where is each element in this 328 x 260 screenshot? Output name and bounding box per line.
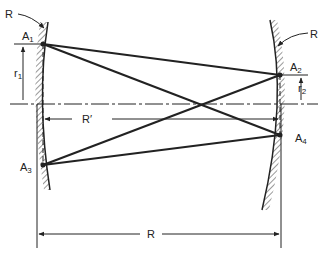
label-r-right: R: [310, 28, 318, 40]
cavity-diagram: R R A1 A2 A3 A4 r1 r2 R′ R: [0, 0, 328, 260]
label-a1: A1: [22, 30, 34, 44]
label-r-prime: R′: [82, 113, 92, 125]
point-a3: [41, 163, 46, 168]
r-right-leader: [278, 33, 308, 46]
label-a4: A4: [295, 132, 307, 146]
label-r-bottom: R: [147, 228, 155, 240]
point-a4: [278, 133, 283, 138]
label-r-left: R: [5, 8, 13, 20]
label-r2: r2: [298, 82, 307, 96]
label-a3: A3: [20, 161, 32, 175]
label-a2: A2: [290, 61, 302, 75]
beam-a3-a4: [43, 135, 280, 165]
label-r1: r1: [14, 67, 23, 81]
beam-a1-a2: [43, 44, 280, 75]
